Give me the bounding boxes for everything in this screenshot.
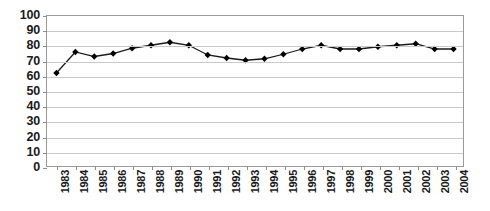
gridline (47, 77, 463, 78)
y-axis-tick-label: 80 (2, 39, 40, 52)
x-axis-tick-label: 1984 (79, 170, 90, 204)
x-axis-tick-label: 1995 (288, 170, 299, 204)
x-axis-tick-label: 2000 (383, 170, 394, 204)
x-axis-tick-label: 1989 (174, 170, 185, 204)
x-axis-tick-label: 1993 (250, 170, 261, 204)
x-axis-tick-label: 1996 (307, 170, 318, 204)
y-axis-tick-label: 0 (2, 161, 40, 174)
y-axis-tick-label: 90 (2, 24, 40, 37)
x-axis-tick-label: 1983 (60, 170, 71, 204)
x-axis-tick-label: 1987 (136, 170, 147, 204)
line-chart: 1009080706050403020100 19831984198519861… (0, 0, 490, 211)
y-axis-tick-label: 30 (2, 115, 40, 128)
y-axis-tick (43, 77, 47, 78)
data-point-marker (318, 42, 324, 48)
x-axis-tick-label: 2001 (402, 170, 413, 204)
y-axis-tick (43, 16, 47, 17)
x-axis-tick-label: 1988 (155, 170, 166, 204)
x-axis-tick-label: 1997 (326, 170, 337, 204)
x-axis-tick-label: 1998 (345, 170, 356, 204)
y-axis-tick (43, 138, 47, 139)
data-point-marker (280, 51, 286, 57)
y-axis-tick-label: 60 (2, 70, 40, 83)
data-point-marker (223, 55, 229, 61)
data-point-marker (110, 50, 116, 56)
x-axis-tick-label: 2004 (459, 170, 470, 204)
x-axis-tick-label: 1985 (98, 170, 109, 204)
gridline (47, 92, 463, 93)
gridline (47, 46, 463, 47)
x-axis-tick-label: 2002 (421, 170, 432, 204)
y-axis-tick (43, 107, 47, 108)
y-axis-tick-label: 10 (2, 146, 40, 159)
data-point-marker (205, 52, 211, 58)
x-axis-tick-label: 1990 (193, 170, 204, 204)
x-axis-tick-label: 2003 (440, 170, 451, 204)
y-axis-tick (43, 168, 47, 169)
data-point-marker (148, 42, 154, 48)
data-series-line (47, 16, 463, 166)
y-axis-tick-label: 20 (2, 131, 40, 144)
y-axis-tick (43, 31, 47, 32)
data-point-marker (186, 42, 192, 48)
y-axis-tick (43, 62, 47, 63)
y-axis-tick (43, 92, 47, 93)
y-axis-tick-label: 70 (2, 55, 40, 68)
y-axis-tick-label: 50 (2, 85, 40, 98)
data-point-marker (167, 39, 173, 45)
gridline (47, 122, 463, 123)
y-axis-tick (43, 153, 47, 154)
y-axis-labels: 1009080706050403020100 (0, 0, 40, 211)
gridline (47, 31, 463, 32)
y-axis-tick (43, 46, 47, 47)
gridline (47, 153, 463, 154)
data-point-marker (394, 42, 400, 48)
x-axis-tick-label: 1991 (212, 170, 223, 204)
y-axis-tick-label: 40 (2, 100, 40, 113)
y-axis-tick-label: 100 (2, 9, 40, 22)
x-axis-tick-label: 1999 (364, 170, 375, 204)
gridline (47, 107, 463, 108)
data-point-marker (91, 53, 97, 59)
x-axis-tick-label: 1994 (269, 170, 280, 204)
plot-area (46, 15, 464, 167)
gridline (47, 62, 463, 63)
gridline (47, 138, 463, 139)
x-axis-tick-label: 1992 (231, 170, 242, 204)
x-axis-labels: 1983198419851986198719881989199019911992… (46, 170, 464, 211)
y-axis-tick (43, 122, 47, 123)
x-axis-tick-label: 1986 (117, 170, 128, 204)
